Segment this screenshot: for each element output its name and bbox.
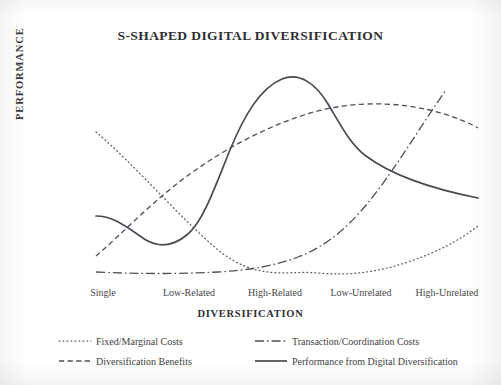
legend-item-label: Transaction/Coordination Costs: [292, 336, 419, 347]
legend-item-label: Diversification Benefits: [96, 356, 192, 367]
dotted-line-icon: [58, 336, 92, 346]
x-axis-title: DIVERSIFICATION: [0, 308, 501, 319]
legend-item-transaction-coordination-costs: Transaction/Coordination Costs: [254, 336, 462, 347]
series-line-performance-digital-diversification: [96, 77, 478, 245]
x-tick-label: Single: [60, 287, 146, 303]
y-axis-title: PERFORMANCE: [14, 0, 25, 120]
legend-item-label: Fixed/Marginal Costs: [96, 336, 183, 347]
legend-item-fixed-marginal-costs: Fixed/Marginal Costs: [58, 336, 254, 347]
legend: Fixed/Marginal Costs Transaction/Coordin…: [58, 331, 462, 371]
x-axis-tick-labels: Single Low-Related High-Related Low-Unre…: [60, 287, 490, 303]
x-tick-label: High-Unrelated: [404, 287, 490, 303]
x-tick-label: High-Related: [232, 287, 318, 303]
dash-dot-line-icon: [254, 336, 288, 346]
legend-item-performance-digital-diversification: Performance from Digital Diversification: [254, 356, 462, 367]
legend-item-diversification-benefits: Diversification Benefits: [58, 356, 254, 367]
legend-item-label: Performance from Digital Diversification: [292, 356, 458, 367]
plot-area: [78, 58, 486, 288]
solid-line-icon: [254, 356, 288, 366]
x-tick-label: Low-Related: [146, 287, 232, 303]
dashed-line-icon: [58, 356, 92, 366]
page-title: S-SHAPED DIGITAL DIVERSIFICATION: [0, 28, 501, 44]
chart-canvas: [78, 58, 486, 288]
figure-container: S-SHAPED DIGITAL DIVERSIFICATION PERFORM…: [0, 0, 501, 385]
x-tick-label: Low-Unrelated: [318, 287, 404, 303]
